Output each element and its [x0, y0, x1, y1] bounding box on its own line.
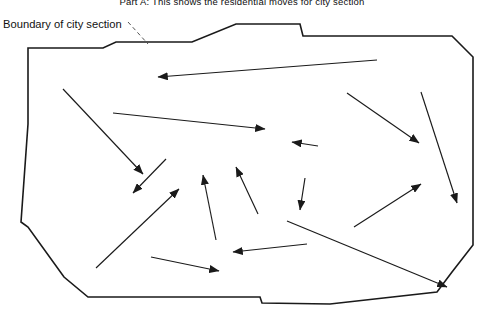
- figure-root: Part A: This shows the residential moves…: [0, 0, 484, 325]
- move-arrow: [113, 113, 265, 129]
- move-arrow: [236, 167, 258, 214]
- move-arrow: [421, 92, 457, 203]
- city-section-boundary: [21, 24, 473, 304]
- move-arrow: [300, 178, 305, 210]
- move-arrow: [203, 175, 216, 240]
- move-arrow: [151, 257, 219, 271]
- move-arrow: [347, 93, 419, 143]
- move-arrow: [233, 244, 307, 252]
- move-arrow: [158, 60, 377, 77]
- boundary-leader-line: [128, 22, 148, 44]
- move-arrow: [354, 184, 421, 227]
- move-arrow: [63, 89, 143, 174]
- move-arrow: [96, 189, 179, 268]
- map-canvas: [0, 0, 484, 325]
- move-arrow: [287, 221, 447, 287]
- move-arrow: [292, 142, 318, 146]
- move-arrow-layer: [63, 60, 457, 287]
- move-arrow: [133, 159, 166, 193]
